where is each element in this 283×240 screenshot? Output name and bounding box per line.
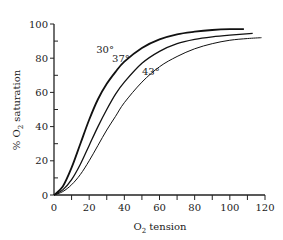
x-tick-label: 100 (220, 202, 239, 213)
curve-labels: 30°37°43° (96, 44, 159, 77)
y-axis-title: % O2 saturation (11, 69, 25, 150)
x-tick-label: 40 (118, 202, 131, 213)
x-tick-label: 60 (153, 202, 166, 213)
curves (54, 29, 261, 195)
curve-label: 43° (142, 66, 160, 77)
x-tick-label: 0 (51, 202, 57, 213)
curve-label: 37° (112, 53, 130, 64)
x-tick-label: 120 (255, 202, 274, 213)
y-tick-label: 80 (35, 53, 48, 64)
x-tick-label: 80 (188, 202, 201, 213)
y-tick-label: 40 (35, 121, 48, 132)
y-tick-label: 100 (29, 19, 48, 30)
curve-30 (54, 29, 244, 195)
oxygen-dissociation-chart: 020406080100020406080100120 30°37°43° O2… (0, 0, 283, 240)
axes: 020406080100020406080100120 (29, 19, 275, 214)
y-tick-label: 20 (35, 155, 48, 166)
x-tick-label: 20 (83, 202, 96, 213)
y-tick-label: 60 (35, 87, 48, 98)
y-tick-label: 0 (42, 190, 48, 201)
curve-37 (54, 33, 253, 195)
x-axis-title: O2 tension (133, 221, 187, 235)
curve-43 (54, 38, 261, 195)
